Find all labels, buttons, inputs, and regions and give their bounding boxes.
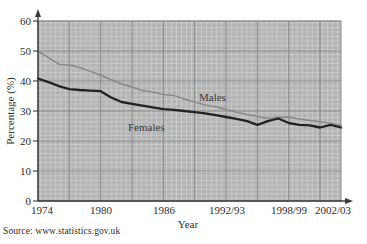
y-tick-label-10: 10 xyxy=(20,165,32,177)
series-annotation-females: Females xyxy=(128,121,165,133)
line-chart: 0 10 20 30 40 50 60 1974 1980 1986 1992/… xyxy=(0,0,367,244)
y-tick-label-20: 20 xyxy=(20,135,32,147)
x-tick-label-1974: 1974 xyxy=(31,204,54,216)
y-axis-arrow-icon xyxy=(35,9,41,17)
x-tick-label-1998-99: 1998/99 xyxy=(271,204,308,216)
y-axis-ticks xyxy=(33,21,38,201)
source-note: Source: www.statistics.gov.uk xyxy=(3,226,120,236)
x-tick-label-1992-93: 1992/93 xyxy=(209,204,246,216)
chart-container: 0 10 20 30 40 50 60 1974 1980 1986 1992/… xyxy=(0,0,367,244)
series-annotation-males: Males xyxy=(199,91,226,103)
x-tick-label-1980: 1980 xyxy=(90,204,113,216)
y-tick-label-40: 40 xyxy=(20,75,32,87)
y-tick-label-50: 50 xyxy=(20,45,32,57)
y-axis-title: Percentage (%) xyxy=(4,77,17,145)
y-tick-label-60: 60 xyxy=(20,15,32,27)
y-tick-label-30: 30 xyxy=(20,105,32,117)
x-tick-label-1986: 1986 xyxy=(153,204,176,216)
x-axis-title: Year xyxy=(178,218,199,230)
x-tick-label-2002-03: 2002/03 xyxy=(315,204,352,216)
